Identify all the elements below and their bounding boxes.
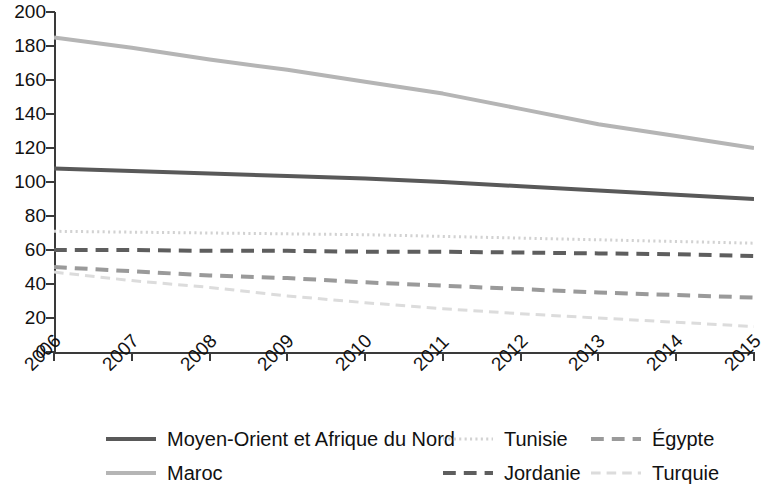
y-tick-label-80: 80 bbox=[2, 206, 46, 225]
series-line-jordanie bbox=[54, 250, 754, 256]
legend-label: Tunisie bbox=[504, 429, 568, 449]
y-tick-label-60: 60 bbox=[2, 240, 46, 259]
legend-label: Moyen-Orient et Afrique du Nord bbox=[167, 429, 455, 449]
legend-item-jordanie[interactable]: Jordanie bbox=[443, 463, 581, 483]
y-tick-label-100: 100 bbox=[2, 172, 46, 191]
y-tick-label-20: 20 bbox=[2, 308, 46, 327]
line-chart: 020406080100120140160180200 200620072008… bbox=[0, 0, 766, 490]
y-tick-label-180: 180 bbox=[2, 36, 46, 55]
legend-swatch-icon bbox=[106, 432, 156, 446]
legend-item-maroc[interactable]: Maroc bbox=[106, 463, 223, 483]
legend-swatch-icon bbox=[106, 466, 156, 480]
series-line-maroc bbox=[54, 38, 754, 149]
y-tick-label-120: 120 bbox=[2, 138, 46, 157]
plot-area bbox=[54, 12, 754, 352]
y-tick-label-160: 160 bbox=[2, 70, 46, 89]
legend-item-moyen-orient-et-afrique-du-nord[interactable]: Moyen-Orient et Afrique du Nord bbox=[106, 429, 455, 449]
legend-label: Maroc bbox=[167, 463, 223, 483]
legend-item-turquie[interactable]: Turquie bbox=[591, 463, 719, 483]
legend-swatch-icon bbox=[591, 432, 641, 446]
chart-legend: Moyen-Orient et Afrique du NordTunisieÉg… bbox=[0, 424, 766, 490]
legend-item-tunisie[interactable]: Tunisie bbox=[443, 429, 568, 449]
y-axis-tick-labels: 020406080100120140160180200 bbox=[0, 0, 46, 370]
series-line-turquie bbox=[54, 272, 754, 326]
y-tick-label-200: 200 bbox=[2, 2, 46, 21]
legend-row-1: Moyen-Orient et Afrique du NordTunisieÉg… bbox=[106, 424, 766, 454]
legend-swatch-icon bbox=[443, 432, 493, 446]
legend-row-2: MarocJordanieTurquie bbox=[106, 458, 766, 488]
series-line-moyen-orient-et-afrique-du-nord bbox=[54, 168, 754, 199]
y-tick-label-40: 40 bbox=[2, 274, 46, 293]
legend-swatch-icon bbox=[591, 466, 641, 480]
legend-label: Turquie bbox=[652, 463, 719, 483]
legend-swatch-icon bbox=[443, 466, 493, 480]
legend-label: Jordanie bbox=[504, 463, 581, 483]
series-line-tunisie bbox=[54, 231, 754, 243]
legend-item-gypte[interactable]: Égypte bbox=[591, 429, 714, 449]
series-line-gypte bbox=[54, 267, 754, 298]
y-tick-label-140: 140 bbox=[2, 104, 46, 123]
legend-label: Égypte bbox=[652, 429, 714, 449]
series-lines bbox=[54, 12, 754, 352]
